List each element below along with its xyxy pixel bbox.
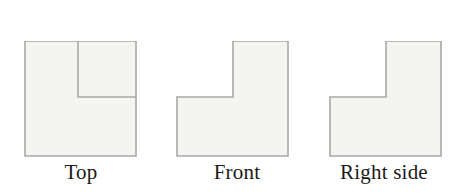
right-side-view-outline [330,41,441,156]
view-right-side: Right side [312,0,456,194]
front-view-shape [162,41,312,157]
orthographic-views-figure: Top Front Right side [0,0,456,194]
top-view-shape [0,41,162,157]
top-view-caption: Top [0,158,162,186]
right-side-view-shape [312,41,456,157]
front-view-outline [177,41,288,156]
front-view-caption: Front [162,158,312,186]
view-top: Top [0,0,162,194]
right-side-view-caption: Right side [312,158,456,186]
top-view-outline [25,41,136,156]
view-front: Front [162,0,312,194]
